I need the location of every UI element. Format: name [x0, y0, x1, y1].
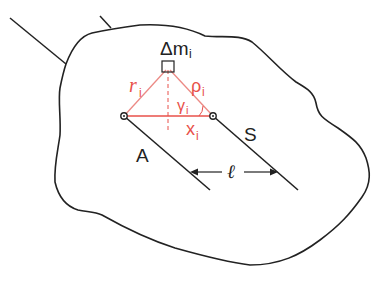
mass-element-subscript: i	[189, 47, 192, 61]
axis-s-label: S	[244, 124, 257, 145]
axis-s-point-center	[212, 115, 214, 117]
parallel-axis-diagram: Δm i r i ρ i γ i x i S A ℓ	[0, 0, 381, 287]
x-label: x	[186, 119, 195, 139]
distance-label: ℓ	[227, 161, 235, 182]
r-label: r	[129, 74, 137, 96]
gamma-label: γ	[177, 97, 185, 114]
gamma-subscript: i	[186, 104, 188, 116]
external-axis-line	[10, 18, 66, 64]
rho-label: ρ	[191, 76, 201, 96]
external-tick-line	[100, 16, 111, 28]
rigid-body-outline	[55, 25, 369, 265]
axis-a-label: A	[136, 145, 149, 166]
x-subscript: i	[196, 129, 199, 143]
r-subscript: i	[139, 86, 142, 100]
rho-subscript: i	[202, 85, 205, 99]
axis-a-point-center	[123, 115, 125, 117]
mass-element-label: Δm	[160, 38, 189, 59]
gamma-angle-arc	[199, 106, 203, 116]
